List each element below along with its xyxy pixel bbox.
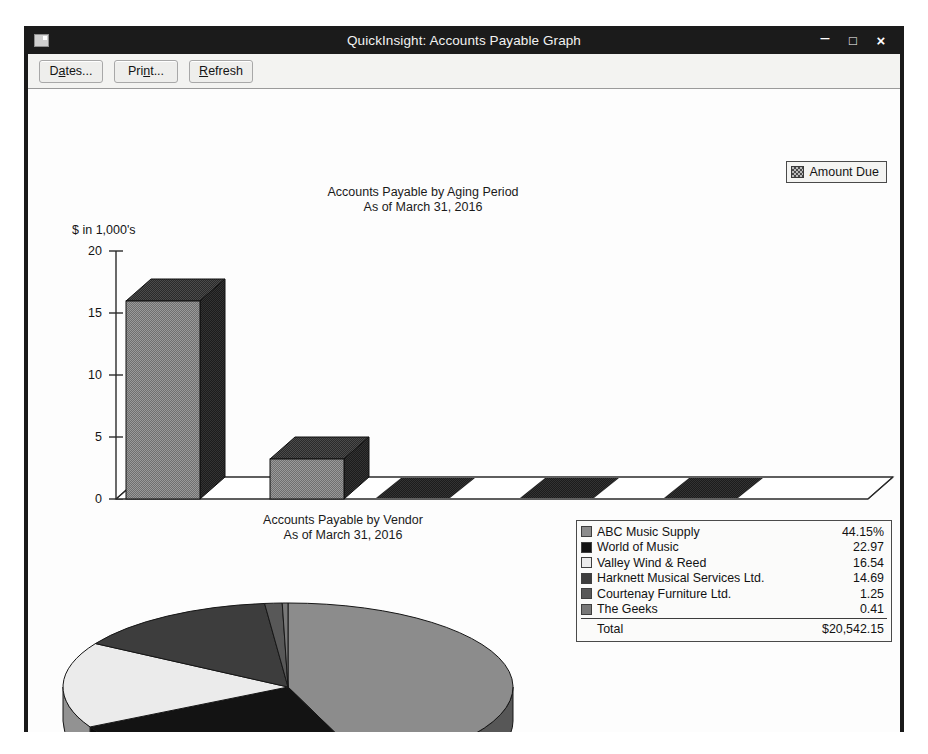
y-axis-title: $ in 1,000's <box>72 223 136 237</box>
pie-chart-subtitle: As of March 31, 2016 <box>178 528 508 543</box>
y-tick-15: 15 <box>88 306 102 320</box>
application-window: QuickInsight: Accounts Payable Graph – □… <box>24 26 904 732</box>
bar-1-30 <box>270 437 369 499</box>
legend-total-value: $20,542.15 <box>822 622 887 636</box>
y-axis-ticks: 20 15 10 5 0 <box>88 244 123 506</box>
title-bar: QuickInsight: Accounts Payable Graph – □… <box>28 26 900 54</box>
refresh-button-accel: R <box>199 64 208 78</box>
y-tick-5: 5 <box>95 430 102 444</box>
legend-swatch-icon <box>581 542 592 553</box>
pie-chart-legend: ABC Music Supply 44.15% World of Music 2… <box>576 520 892 642</box>
refresh-button[interactable]: Refresh <box>189 60 253 83</box>
pie-chart-title-block: Accounts Payable by Vendor As of March 3… <box>178 513 508 543</box>
legend-label: Harknett Musical Services Ltd. <box>597 571 853 585</box>
legend-row: ABC Music Supply 44.15% <box>581 524 887 540</box>
graph-canvas: Accounts Payable by Aging Period As of M… <box>28 89 900 732</box>
close-icon[interactable]: × <box>874 33 888 48</box>
pie-slice-1 <box>288 603 513 732</box>
y-tick-0: 0 <box>95 492 102 506</box>
legend-value: 14.69 <box>853 571 887 585</box>
legend-row: Courtenay Furniture Ltd. 1.25 <box>581 586 887 602</box>
legend-label: Courtenay Furniture Ltd. <box>597 587 860 601</box>
legend-row: Valley Wind & Reed 16.54 <box>581 555 887 571</box>
minimize-icon[interactable]: – <box>818 30 832 46</box>
legend-row: Harknett Musical Services Ltd. 14.69 <box>581 571 887 587</box>
print-button-label-end: t... <box>150 64 164 78</box>
dates-button[interactable]: Dates... <box>39 60 103 83</box>
window-title: QuickInsight: Accounts Payable Graph <box>28 33 900 48</box>
pie-chart-plot <box>28 569 588 732</box>
legend-value: 0.41 <box>860 602 887 616</box>
print-button-label: Pri <box>128 64 143 78</box>
toolbar: Dates... Print... Refresh <box>28 54 900 89</box>
y-tick-20: 20 <box>88 244 102 258</box>
screen: QuickInsight: Accounts Payable Graph – □… <box>0 0 928 754</box>
bar-chart-legend-label: Amount Due <box>810 165 879 179</box>
legend-total-label: Total <box>581 622 822 636</box>
maximize-icon[interactable]: □ <box>846 34 860 47</box>
print-button[interactable]: Print... <box>114 60 178 83</box>
legend-swatch-icon <box>581 526 592 537</box>
dates-button-accel: a <box>58 64 65 78</box>
legend-label: The Geeks <box>597 602 860 616</box>
legend-total-row: Total $20,542.15 <box>581 618 887 637</box>
legend-value: 22.97 <box>853 540 887 554</box>
dates-button-label: D <box>49 64 58 78</box>
legend-label: World of Music <box>597 540 853 554</box>
y-tick-10: 10 <box>88 368 102 382</box>
chart-floor <box>116 477 893 499</box>
legend-label: ABC Music Supply <box>597 525 842 539</box>
amount-due-swatch-icon <box>791 166 804 178</box>
legend-label: Valley Wind & Reed <box>597 556 853 570</box>
legend-value: 1.25 <box>860 587 887 601</box>
legend-value: 44.15% <box>842 525 887 539</box>
legend-row: World of Music 22.97 <box>581 540 887 556</box>
bar-chart-title: Accounts Payable by Aging Period <box>258 185 588 200</box>
legend-swatch-icon <box>581 557 592 568</box>
legend-row: The Geeks 0.41 <box>581 602 887 618</box>
bar-chart-legend: Amount Due <box>786 161 887 183</box>
refresh-button-label: efresh <box>208 64 243 78</box>
pie-chart-title: Accounts Payable by Vendor <box>178 513 508 528</box>
dates-button-label-end: tes... <box>65 64 92 78</box>
legend-value: 16.54 <box>853 556 887 570</box>
print-button-accel: n <box>143 64 150 78</box>
window-controls: – □ × <box>818 32 900 48</box>
bar-chart-plot: $ in 1,000's 20 15 10 5 0 <box>28 209 900 509</box>
app-window-icon <box>34 34 49 47</box>
bar-current <box>126 279 225 499</box>
